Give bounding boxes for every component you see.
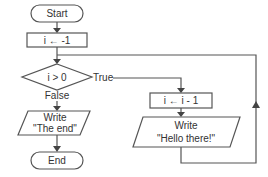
write-end-node: Write "The end" [18,111,90,135]
write-hello-line1: Write [174,120,198,131]
arrow-down-icon [177,88,185,93]
write-hello-line2: "Hello there!" [157,133,216,144]
arrow-down-icon [53,59,61,64]
end-node: End [31,152,83,169]
condition-label: i > 0 [47,72,67,83]
arrow-down-icon [53,146,61,152]
write-hello-node: Write "Hello there!" [133,117,240,147]
decrement-label: i ← i - 1 [164,95,199,106]
start-node: Start [31,5,83,22]
false-label: False [45,90,70,101]
edge-true [113,78,181,89]
init-label: i ← -1 [44,35,71,46]
write-end-line1: Write [43,112,67,123]
init-node: i ← -1 [27,33,87,47]
condition-node: i > 0 [22,64,92,90]
arrow-down-icon [53,106,61,111]
end-label: End [48,155,66,166]
write-end-line2: "The end" [33,123,77,134]
start-label: Start [46,8,67,19]
arrow-down-icon [177,112,185,117]
arrow-down-icon [53,28,61,33]
true-label: True [93,72,114,83]
decrement-node: i ← i - 1 [150,93,212,108]
flowchart-diagram: Start i ← -1 i > 0 True i ← i - 1 Write … [0,0,268,177]
arrow-up-icon [252,101,260,108]
